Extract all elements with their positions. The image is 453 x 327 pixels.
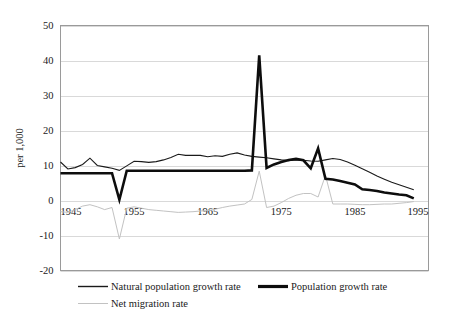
line-chart: 50403020100-10-20 1945195519651975198519… xyxy=(0,0,453,327)
gridlines xyxy=(61,27,429,272)
x-tick-label: 1955 xyxy=(124,206,145,217)
x-tick-label: 1975 xyxy=(271,206,292,217)
series-line-1 xyxy=(61,55,414,200)
y-tick-label: 0 xyxy=(48,195,53,206)
legend-item: Population growth rate xyxy=(258,281,388,292)
y-axis-tick-labels: 50403020100-10-20 xyxy=(40,20,54,276)
legend-label: Net migration rate xyxy=(111,298,188,309)
y-tick-label: 40 xyxy=(43,55,54,66)
x-tick-label: 1985 xyxy=(344,206,365,217)
legend-label: Population growth rate xyxy=(291,281,388,292)
plot-area-border xyxy=(61,26,429,271)
y-tick-label: -10 xyxy=(40,230,54,241)
y-tick-label: 30 xyxy=(43,90,54,101)
legend-label: Natural population growth rate xyxy=(111,281,241,292)
y-tick-label: 10 xyxy=(43,160,54,171)
y-tick-label: 20 xyxy=(43,125,54,136)
x-axis-tick-labels: 194519551965197519851995 xyxy=(61,206,429,217)
x-tick-label: 1995 xyxy=(408,206,429,217)
legend-item: Natural population growth rate xyxy=(78,281,241,292)
chart-figure: 50403020100-10-20 1945195519651975198519… xyxy=(0,0,453,327)
y-tick-label: -20 xyxy=(40,265,54,276)
y-axis-title: per 1,000 xyxy=(14,128,25,168)
y-tick-label: 50 xyxy=(43,20,54,31)
legend-item: Net migration rate xyxy=(78,298,188,309)
chart-legend: Natural population growth ratePopulation… xyxy=(78,281,388,309)
